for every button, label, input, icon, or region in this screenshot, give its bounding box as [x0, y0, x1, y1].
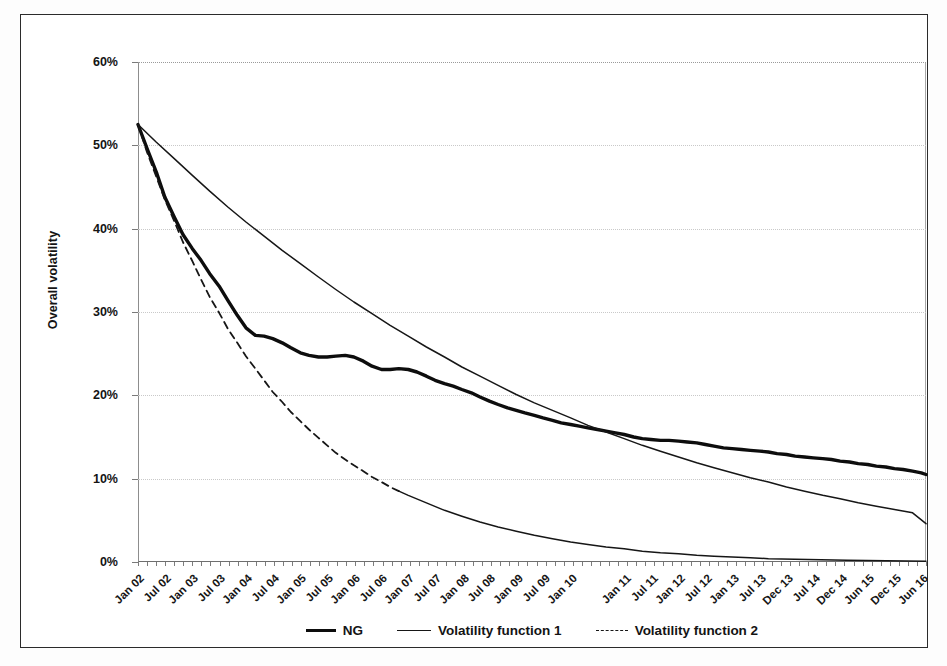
x-axis-tick-mark [808, 562, 809, 566]
legend-item[interactable]: Volatility function 2 [596, 623, 759, 638]
x-axis-tick-mark [899, 562, 900, 566]
x-axis-tick-mark [274, 562, 275, 566]
x-axis-tick-mark [917, 562, 918, 566]
x-axis-tick-mark [636, 562, 637, 566]
x-axis-tick-mark [763, 562, 764, 566]
x-axis-tick-mark [156, 562, 157, 566]
x-axis-tick-mark [835, 562, 836, 566]
series-1 [138, 125, 926, 475]
x-axis-tick-mark [455, 562, 456, 566]
x-axis-tick-mark [863, 562, 864, 566]
x-axis-tick-mark [265, 562, 266, 566]
x-axis-tick-mark [781, 562, 782, 566]
x-axis-tick-mark [854, 562, 855, 566]
x-axis-tick-mark [319, 562, 320, 566]
x-axis-tick-mark [844, 562, 845, 566]
x-axis-tick-mark [582, 562, 583, 566]
x-axis-tick-mark [410, 562, 411, 566]
x-axis-tick-mark [672, 562, 673, 566]
series-line [138, 125, 926, 475]
x-axis-tick-mark [201, 562, 202, 566]
x-axis-tick-mark [328, 562, 329, 566]
x-axis-tick-mark [890, 562, 891, 566]
series-line [399, 491, 926, 561]
x-axis-tick-mark [355, 562, 356, 566]
y-axis-tick-label: 10% [46, 472, 118, 486]
x-axis-tick-mark [600, 562, 601, 566]
x-axis-tick-mark [500, 562, 501, 566]
x-axis-tick-mark [401, 562, 402, 566]
x-axis-tick-mark [138, 562, 139, 566]
x-axis-tick-mark [564, 562, 565, 566]
x-axis-tick-mark [591, 562, 592, 566]
series-3 [138, 125, 926, 562]
x-axis-tick-mark [464, 562, 465, 566]
legend-item[interactable]: NG [306, 623, 363, 638]
x-axis-tick-mark [428, 562, 429, 566]
x-axis-tick-mark [473, 562, 474, 566]
x-axis-tick-mark [491, 562, 492, 566]
x-axis-tick-mark [736, 562, 737, 566]
x-axis-tick-mark [926, 562, 927, 566]
x-axis-tick-mark [745, 562, 746, 566]
x-axis-tick-mark [727, 562, 728, 566]
x-axis-tick-mark [609, 562, 610, 566]
y-axis-tick-label: 60% [46, 55, 118, 69]
x-axis-tick-mark [373, 562, 374, 566]
legend-swatch-icon [397, 630, 431, 631]
x-axis-tick-mark [509, 562, 510, 566]
legend-label: Volatility function 1 [438, 623, 562, 638]
x-axis-tick-mark [165, 562, 166, 566]
figure-border: Overall volatility 60%50%40%30%20%10%0% … [20, 14, 928, 648]
x-axis-tick-mark [346, 562, 347, 566]
series-line [138, 125, 926, 524]
x-axis-tick-mark [518, 562, 519, 566]
x-axis-tick-mark [772, 562, 773, 566]
chart-lines [138, 62, 926, 562]
x-axis-tick-mark [310, 562, 311, 566]
y-axis-tick-label: 50% [46, 138, 118, 152]
x-axis-tick-mark [790, 562, 791, 566]
x-axis-tick-mark [183, 562, 184, 566]
x-axis-tick-mark [573, 562, 574, 566]
y-axis-tick-label: 0% [46, 555, 118, 569]
x-axis-tick-mark [419, 562, 420, 566]
x-axis-tick-mark [627, 562, 628, 566]
legend-label: NG [343, 623, 363, 638]
x-axis-tick-mark [872, 562, 873, 566]
x-axis-tick-mark [229, 562, 230, 566]
plot-area [138, 62, 926, 562]
legend-item[interactable]: Volatility function 1 [397, 623, 562, 638]
x-axis-tick-mark [527, 562, 528, 566]
x-axis-tick-mark [654, 562, 655, 566]
x-axis-tick-mark [718, 562, 719, 566]
x-axis-tick-mark [283, 562, 284, 566]
x-axis-tick-mark [645, 562, 646, 566]
x-axis-tick-mark [691, 562, 692, 566]
x-axis-tick-mark [220, 562, 221, 566]
series-2 [138, 125, 926, 524]
x-axis-tick-mark [537, 562, 538, 566]
x-axis-tick-mark [192, 562, 193, 566]
x-axis-tick-mark [618, 562, 619, 566]
y-axis-tick-label: 40% [46, 222, 118, 236]
y-axis-tick-label: 30% [46, 305, 118, 319]
x-axis-tick-mark [292, 562, 293, 566]
x-axis-tick-mark [881, 562, 882, 566]
x-axis-tick-mark [147, 562, 148, 566]
y-axis-tick-label: 20% [46, 388, 118, 402]
x-axis-tick-mark [301, 562, 302, 566]
chart-legend: NGVolatility function 1Volatility functi… [138, 623, 926, 638]
x-axis-tick-mark [908, 562, 909, 566]
x-axis-tick-mark [555, 562, 556, 566]
x-axis-tick-mark [437, 562, 438, 566]
x-axis-tick-mark [799, 562, 800, 566]
figure: Overall volatility 60%50%40%30%20%10%0% … [0, 0, 947, 666]
x-axis-tick-mark [210, 562, 211, 566]
x-axis-tick-mark [247, 562, 248, 566]
x-axis-tick-mark [482, 562, 483, 566]
x-axis-tick-mark [826, 562, 827, 566]
x-axis-tick-mark [383, 562, 384, 566]
x-axis-tick-mark [337, 562, 338, 566]
x-axis-tick-mark [364, 562, 365, 566]
